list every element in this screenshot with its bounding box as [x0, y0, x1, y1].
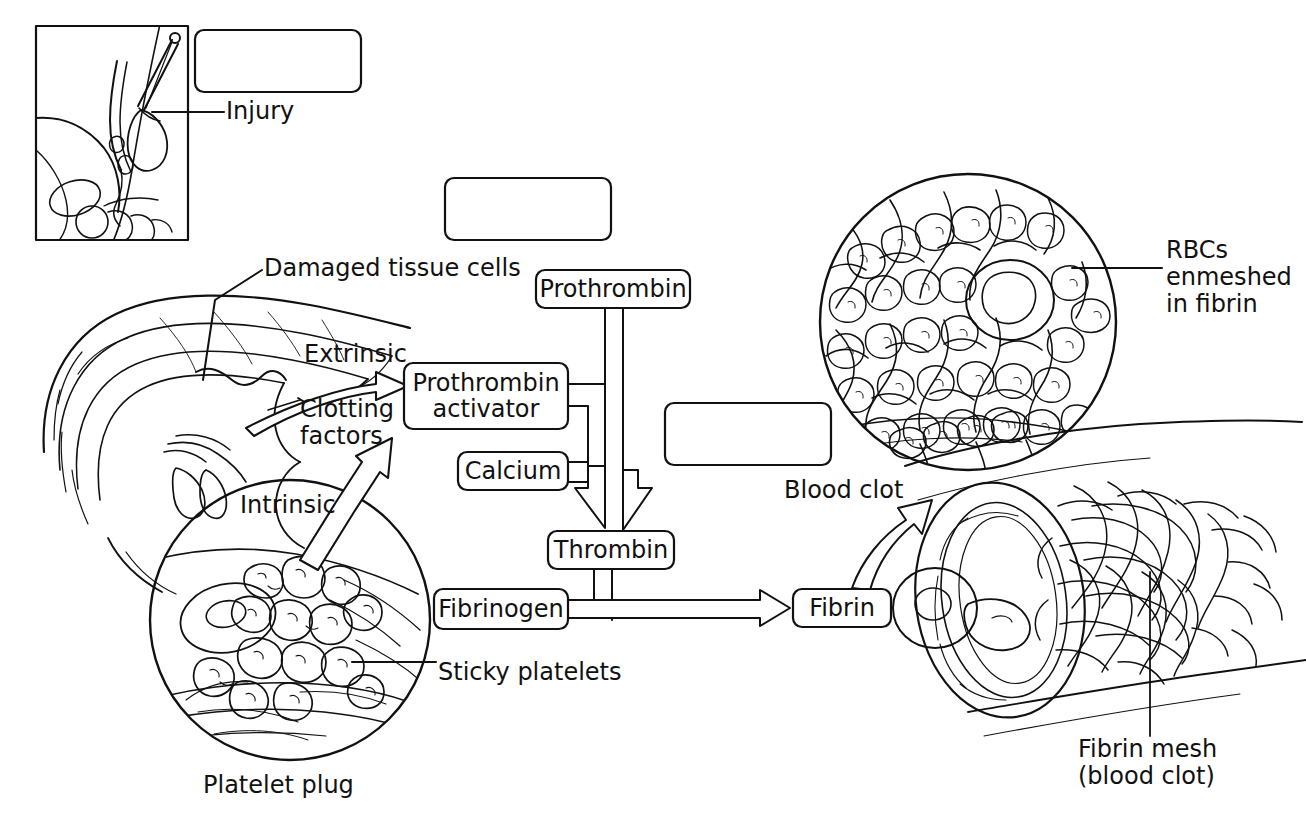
platelet-plug-magnification — [150, 438, 436, 760]
callout-injury: Injury — [226, 98, 294, 125]
callout-fibrin-mesh: Fibrin mesh (blood clot) — [1078, 736, 1217, 790]
rbcs-enmeshed-in-fibrin-magnification — [818, 174, 1162, 480]
vessel-with-fibrin-mesh-illustration — [890, 412, 1306, 736]
callout-damaged-tissue-cells: Damaged tissue cells — [264, 255, 521, 282]
callout-sticky-platelets: Sticky platelets — [438, 659, 622, 686]
flowchart-box-shapes — [195, 30, 891, 629]
lineart-layer — [0, 0, 1306, 830]
callout-platelet-plug: Platelet plug — [203, 772, 354, 799]
label-extrinsic: Extrinsic — [304, 341, 407, 368]
label-intrinsic: Intrinsic — [240, 492, 336, 519]
callout-rbcs-enmeshed-in-fibrin: RBCs enmeshed in fibrin — [1166, 237, 1292, 318]
callout-blood-clot: Blood clot — [784, 477, 903, 504]
diagram-canvas: Prothrombin Prothrombin activator Calciu… — [0, 0, 1306, 830]
label-clotting-factors: Clotting factors — [300, 396, 394, 450]
